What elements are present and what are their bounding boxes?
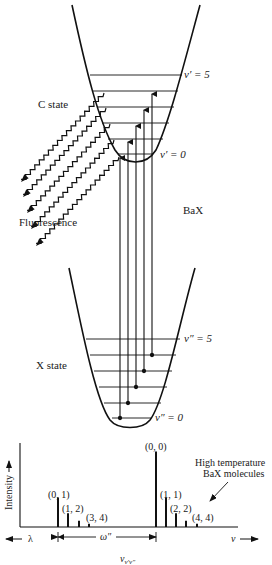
annotation-line-2: BaX molecules [203, 468, 264, 479]
omega-label: ω″ [100, 531, 112, 542]
peak-label-0-0: (0, 0) [145, 441, 167, 453]
v-prime-5-label: v′ = 5 [184, 68, 210, 80]
peak-label-1-2: (1, 2) [62, 503, 84, 515]
v-dprime-5-label: v″ = 5 [184, 332, 212, 344]
molecule-label: BaX [183, 204, 203, 216]
annotation-arrow-icon [210, 482, 228, 501]
fluorescence-arrowhead-icon [36, 238, 44, 246]
peak-label-0-1: (0, 1) [48, 489, 70, 501]
annotation-line-1: High temperature [195, 457, 266, 468]
x-state-potential [69, 268, 195, 428]
nu-label: ν [231, 533, 236, 544]
fluorescence-arrowhead-icon [27, 205, 35, 213]
fluorescence-arrowhead-icon [23, 189, 31, 197]
fluorescence-wave [23, 108, 106, 194]
peak-label-2-2: (2, 2) [170, 503, 192, 515]
fluorescence-wave [31, 140, 114, 226]
peak-label-4-4: (4, 4) [192, 512, 214, 524]
v-dprime-0-label: v″ = 0 [155, 411, 183, 423]
peak-label-1-1: (1, 1) [160, 489, 182, 501]
v-prime-0-label: v′ = 0 [160, 148, 186, 160]
lambda-label: λ [28, 533, 33, 544]
y-axis-label: Intensity [3, 475, 14, 510]
peak-label-3-4: (3, 4) [86, 512, 108, 524]
fluorescence-label: Fluorescence [19, 216, 77, 228]
fluorescence-wave [27, 124, 110, 210]
spectrum-chart: Intensity (0, 1) (1, 2) (3, 4) (0, 0) (1… [3, 441, 266, 565]
x-state-label: X state [36, 359, 67, 371]
nu-vv-label: νv′v″ [120, 553, 135, 565]
fluorescence-arrowhead-icon [21, 174, 29, 182]
c-state-label: C state [38, 98, 68, 110]
bax-energy-diagram: v′ = 5 v′ = 0 C state Fluorescence BaX v… [0, 0, 272, 565]
